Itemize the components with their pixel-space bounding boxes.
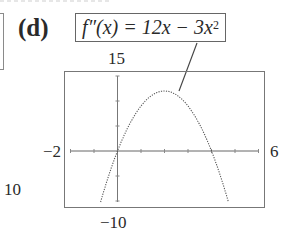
x-max-label: 6 (270, 143, 279, 161)
y-min-label: −10 (100, 214, 127, 232)
parabola-curve (101, 91, 229, 202)
x-min-label: −2 (43, 143, 61, 161)
plot-frame (65, 72, 265, 208)
y-max-label: 15 (108, 50, 125, 68)
callout-leader-line (179, 43, 197, 91)
graph-plot (0, 0, 283, 251)
neighbor-panel-label: 10 (4, 181, 21, 199)
